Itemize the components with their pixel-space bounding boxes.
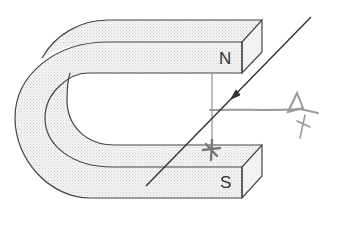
north-pole-label: N [219, 50, 231, 67]
horizontal-sight-line [210, 109, 318, 113]
t-mark [297, 115, 310, 138]
diagram-canvas [0, 0, 346, 231]
eye-icon [288, 93, 303, 112]
south-pole-label: S [220, 174, 231, 191]
